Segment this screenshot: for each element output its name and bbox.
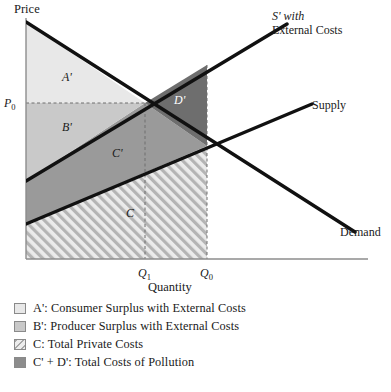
legend-item-a-prime: A': Consumer Surplus with External Costs (14, 300, 391, 317)
legend-swatch-a-prime (14, 303, 26, 314)
chart-legend: A': Consumer Surplus with External Costs… (0, 300, 391, 392)
x-tick-q1: Q1 (138, 266, 151, 282)
supply-demand-externality-chart: A' B' C' D' C Price Quantity P0 Q1 Q0 S'… (0, 0, 391, 300)
region-label-c-prime: C' (112, 146, 123, 160)
legend-item-c-prime-d-prime: C' + D': Total Costs of Pollution (14, 354, 391, 371)
y-tick-p0: P0 (3, 96, 16, 112)
legend-swatch-b-prime (14, 321, 26, 332)
curve-label-supply: Supply (312, 98, 346, 112)
legend-swatch-c (14, 339, 26, 350)
region-label-d-prime: D' (173, 93, 186, 107)
legend-label-c-prime-d-prime: C' + D': Total Costs of Pollution (33, 355, 194, 370)
curve-label-demand: Demand (340, 225, 381, 239)
legend-swatch-c-prime-d-prime (14, 357, 26, 368)
y-axis-title: Price (14, 2, 40, 16)
x-tick-q0: Q0 (200, 266, 213, 282)
x-axis-title: Quantity (148, 280, 192, 294)
region-label-b-prime: B' (62, 120, 72, 134)
curve-label-s-prime-line2: External Costs (272, 23, 343, 37)
legend-label-b-prime: B': Producer Surplus with External Costs (33, 319, 239, 334)
curve-label-s-prime: S' with (272, 9, 304, 23)
region-label-c: C (126, 206, 135, 220)
legend-label-a-prime: A': Consumer Surplus with External Costs (33, 301, 246, 316)
region-label-a-prime: A' (61, 70, 72, 84)
legend-item-b-prime: B': Producer Surplus with External Costs (14, 318, 391, 335)
legend-item-c: C: Total Private Costs (14, 336, 391, 353)
legend-label-c: C: Total Private Costs (33, 337, 143, 352)
